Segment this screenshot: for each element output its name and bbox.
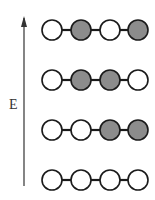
- energy-axis-label: E: [9, 97, 18, 112]
- filled-site: [100, 120, 120, 140]
- filled-site: [128, 120, 148, 140]
- energy-axis: E: [9, 16, 27, 186]
- empty-site: [100, 170, 120, 190]
- empty-site: [128, 170, 148, 190]
- chain-rows: [42, 20, 148, 190]
- energy-level-diagram: E: [0, 0, 155, 200]
- arrowhead-icon: [21, 16, 27, 27]
- empty-site: [100, 20, 120, 40]
- empty-site: [42, 170, 62, 190]
- empty-site: [42, 70, 62, 90]
- filled-site: [71, 20, 91, 40]
- chain-row-level-2: [42, 120, 148, 140]
- filled-site: [100, 70, 120, 90]
- filled-site: [128, 20, 148, 40]
- empty-site: [42, 120, 62, 140]
- chain-row-level-1: [42, 170, 148, 190]
- filled-site: [71, 70, 91, 90]
- empty-site: [71, 120, 91, 140]
- empty-site: [71, 170, 91, 190]
- empty-site: [128, 70, 148, 90]
- chain-row-level-4: [42, 20, 148, 40]
- empty-site: [42, 20, 62, 40]
- chain-row-level-3: [42, 70, 148, 90]
